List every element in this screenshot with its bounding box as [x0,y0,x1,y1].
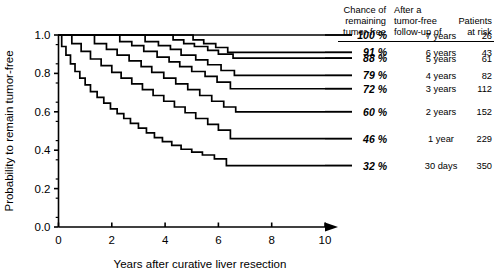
chart-canvas: 0.00.20.40.60.81.0 0246810 Probability t… [0,0,498,276]
legend-header-followup-line1: After a [394,5,422,15]
legend-patients-at-risk-value: 26 [482,31,492,41]
legend-followup-value: 30 days [425,161,458,171]
legend-followup-value: 1 year [428,134,454,144]
x-tick-label: 6 [215,234,221,246]
legend-followup-value: 3 years [426,84,457,94]
legend-header-chance-line2: remaining [345,16,386,26]
legend-chance-value: 100 % [357,29,387,41]
y-tick-label: 0.0 [35,221,51,233]
x-axis-title: Years after curative liver resection [114,258,287,270]
legend-followup-value: 2 years [426,107,457,117]
legend-header-patients-line1: Patients [458,16,492,26]
legend-header-chance-line1: Chance of [344,5,387,15]
x-tick-label: 10 [319,234,332,246]
legend-chance-value: 32 % [363,160,388,172]
legend-followup-value: 5 years [426,54,457,64]
legend-chance-value: 88 % [363,52,388,64]
legend-patients-at-risk-value: 82 [482,71,492,81]
y-tick-label: 1.0 [35,29,51,41]
x-tick-label: 4 [162,234,169,246]
x-tick-label: 8 [268,234,274,246]
y-tick-label: 0.4 [35,144,52,156]
legend-patients-at-risk-value: 350 [476,161,492,171]
x-tick-label: 2 [109,234,115,246]
legend-followup-value: 4 years [426,71,457,81]
y-axis-title: Probability to remain tumor-free [3,50,15,211]
legend-chance-value: 72 % [363,83,388,95]
legend-patients-at-risk-value: 112 [477,84,492,94]
legend-chance-value: 60 % [363,106,388,118]
y-tick-label: 0.8 [35,67,51,79]
legend-chance-value: 46 % [362,133,388,145]
x-tick-label: 0 [55,234,61,246]
legend-chance-value: 79 % [363,69,388,81]
legend-patients-at-risk-value: 152 [476,107,492,117]
y-tick-label: 0.6 [35,106,51,118]
kaplan-meier-figure: 0.00.20.40.60.81.0 0246810 Probability t… [0,0,498,276]
legend-patients-at-risk-value: 229 [476,134,492,144]
legend-header-followup-line2: tumor-free [394,16,437,26]
y-tick-label: 0.2 [35,183,51,195]
legend-patients-at-risk-value: 61 [482,54,492,64]
legend-followup-value: 7 years [426,31,457,41]
